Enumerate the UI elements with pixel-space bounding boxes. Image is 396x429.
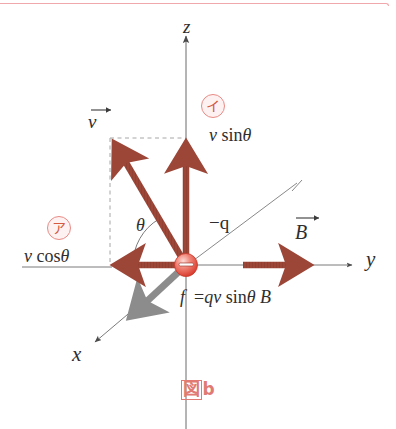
force-theta: θ [247,287,256,307]
v-cos-theta-label: v cosθ [24,247,69,265]
angle-label-theta: θ [136,216,145,234]
velocity-vector-label: v [88,112,96,131]
marker-a-circled: ア [47,216,71,240]
figure-page: z y x v v sinθ v cosθ −q B f =qv sinθ B … [0,0,396,429]
force-sin: sin [226,287,247,307]
physics-diagram-canvas [0,0,396,429]
velocity-vector-v [115,144,186,265]
v-sin-theta-label: v sinθ [209,126,251,144]
axis-label-z: z [183,17,190,36]
figure-caption-rest: b [202,379,214,399]
charge-leader-line [190,180,302,263]
charge-label: −q [209,213,229,232]
force-v: v [213,287,221,307]
force-q: q [204,287,213,307]
magnetic-field-label: B [295,222,307,242]
v-cos-theta-v: v [24,246,32,266]
force-equation-label: f =qv sinθ B [180,288,271,306]
force-equals: = [194,287,204,307]
figure-caption: 図b [0,379,396,400]
v-sin-theta-fn: sin [222,125,243,145]
force-B: B [260,287,271,307]
marker-i-circled: イ [201,94,225,118]
figure-caption-box-char: 図 [181,380,202,400]
axis-label-x: x [72,344,81,365]
v-sin-theta-v: v [209,125,217,145]
v-sin-theta-angle: θ [243,125,252,145]
B-label-overbar-arrow [296,215,319,220]
axis-label-y: y [366,249,375,270]
charge-sphere [175,254,198,277]
v-cos-theta-fn: cos [37,246,61,266]
v-cos-theta-angle: θ [61,246,70,266]
